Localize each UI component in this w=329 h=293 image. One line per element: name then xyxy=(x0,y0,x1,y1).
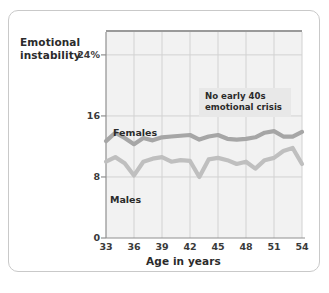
x-tick-label-48: 48 xyxy=(234,241,258,252)
x-tick-label-51: 51 xyxy=(262,241,286,252)
series-label-females: Females xyxy=(113,127,157,138)
y-tick-marks xyxy=(101,55,106,238)
x-tick-label-33: 33 xyxy=(94,241,118,252)
y-tick-label-8: 8 xyxy=(62,171,100,182)
x-tick-label-39: 39 xyxy=(150,241,174,252)
x-tick-label-54: 54 xyxy=(290,241,314,252)
y-tick-label-16: 16 xyxy=(62,110,100,121)
x-tick-label-45: 45 xyxy=(206,241,230,252)
x-tick-label-42: 42 xyxy=(178,241,202,252)
annotation-line-1: No early 40s xyxy=(205,91,286,102)
series-label-males: Males xyxy=(110,194,141,205)
annotation-no-early-40s-crisis: No early 40s emotional crisis xyxy=(199,88,291,117)
x-tick-label-36: 36 xyxy=(122,241,146,252)
annotation-line-2: emotional crisis xyxy=(205,102,286,113)
y-tick-label-24%: 24% xyxy=(62,49,100,60)
